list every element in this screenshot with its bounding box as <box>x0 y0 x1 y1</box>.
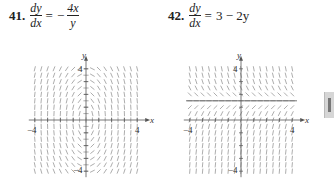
y-max-label: 4 <box>78 64 83 74</box>
axis-arrowheads <box>239 56 305 122</box>
x-min-label: −4 <box>27 125 37 135</box>
y-max-label: 4 <box>233 64 238 74</box>
axes-41 <box>29 56 150 177</box>
y-axis-label: y <box>81 50 86 60</box>
page-edge-tab <box>324 92 334 118</box>
x-min-label: −4 <box>183 125 193 135</box>
y-axis-label: y <box>236 50 241 60</box>
y-min-label: −4 <box>228 165 238 175</box>
y-min-label: −4 <box>73 165 83 175</box>
tab-mark <box>328 98 331 112</box>
x-max-label: 4 <box>135 125 140 135</box>
x-axis-label: x <box>304 115 309 125</box>
x-axis-label: x <box>149 115 154 125</box>
x-max-label: 4 <box>290 125 295 135</box>
